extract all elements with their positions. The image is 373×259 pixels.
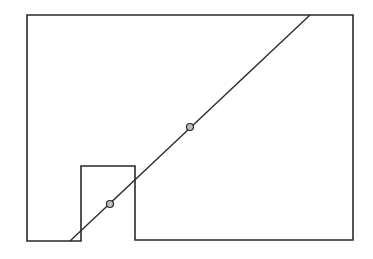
upper-point [187,124,194,131]
diagram-canvas [0,0,373,259]
lower-point [107,201,114,208]
